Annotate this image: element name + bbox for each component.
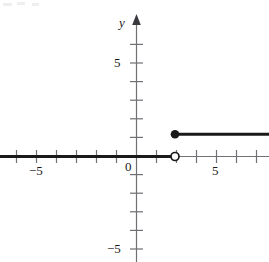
scan-speck: [17, 2, 25, 5]
y-tick-label-5: 5: [114, 56, 121, 69]
coordinate-plane: [0, 0, 269, 262]
y-axis-label: y: [119, 16, 125, 29]
closed-endpoint-marker: [171, 130, 180, 139]
axis-lines: [0, 14, 269, 262]
open-endpoint-marker: [171, 153, 179, 161]
scan-speck: [32, 3, 39, 6]
origin-label: 0: [125, 160, 132, 173]
x-tick-label-minus-5: −5: [29, 164, 43, 177]
scan-speck: [3, 3, 12, 6]
x-tick-label-5: 5: [212, 164, 219, 177]
y-axis-arrow-icon: [132, 14, 141, 25]
graph-screenshot: y 5 −5 0 −5 5: [0, 0, 269, 262]
y-tick-label-minus-5: −5: [107, 242, 121, 255]
